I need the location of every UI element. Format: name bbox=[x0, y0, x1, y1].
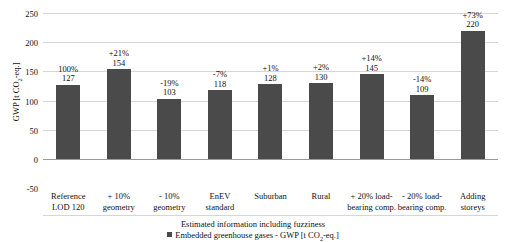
y-tick-0: 0 bbox=[8, 156, 38, 165]
legend: Estimated information including fuzzines… bbox=[0, 219, 506, 242]
legend-caption: Estimated information including fuzzines… bbox=[0, 219, 506, 230]
bar-absolute-label: 103 bbox=[160, 88, 178, 98]
bar[interactable] bbox=[208, 90, 232, 159]
bar[interactable] bbox=[309, 83, 333, 159]
x-axis-category-label: Addingstoreys bbox=[442, 191, 504, 213]
bar[interactable] bbox=[410, 95, 434, 159]
plot-area: 100%127+21%154-19%103-7%118+1%128+2%130+… bbox=[43, 13, 498, 188]
bar-absolute-label: 154 bbox=[109, 59, 129, 69]
bar-slot: -7%118 bbox=[195, 13, 246, 188]
bar[interactable] bbox=[157, 99, 181, 159]
bar[interactable] bbox=[258, 84, 282, 159]
bar-slot: -14%109 bbox=[397, 13, 448, 188]
bar-absolute-label: 130 bbox=[313, 73, 329, 83]
bar-slot: +73%220 bbox=[447, 13, 498, 188]
bar-slot: +1%128 bbox=[245, 13, 296, 188]
bar[interactable] bbox=[56, 85, 80, 159]
bar[interactable] bbox=[107, 69, 131, 159]
legend-series-item: Embedded greenhouse gases - GWP [t CO2-e… bbox=[0, 230, 506, 242]
bar-value-label: +21%154 bbox=[109, 49, 129, 68]
bar-absolute-label: 220 bbox=[463, 20, 483, 30]
bar-absolute-label: 127 bbox=[58, 74, 78, 84]
bar-absolute-label: 145 bbox=[361, 64, 381, 74]
y-tick-100: 100 bbox=[8, 98, 38, 107]
y-tick-250: 250 bbox=[8, 10, 38, 19]
bar-value-label: -7%118 bbox=[213, 70, 227, 89]
y-tick-50: 50 bbox=[8, 127, 38, 136]
bar-value-label: +14%145 bbox=[361, 54, 381, 73]
bar-value-label: -14%109 bbox=[413, 75, 431, 94]
bar-absolute-label: 118 bbox=[213, 80, 227, 90]
bar-slot: 100%127 bbox=[43, 13, 94, 188]
bar-absolute-label: 128 bbox=[262, 74, 278, 84]
category-line-1: Adding bbox=[442, 191, 504, 202]
x-axis-categories: ReferenceLOD 120+ 10%geometry- 10%geomet… bbox=[43, 191, 498, 217]
bar-slot: +2%130 bbox=[296, 13, 347, 188]
bar-value-label: +1%128 bbox=[262, 64, 278, 83]
bar-value-label: -19%103 bbox=[160, 79, 178, 98]
bar[interactable] bbox=[360, 74, 384, 159]
bar-value-label: +73%220 bbox=[463, 11, 483, 30]
bar-value-label: 100%127 bbox=[58, 65, 78, 84]
legend-swatch-icon bbox=[167, 232, 172, 237]
y-tick-neg50: -50 bbox=[8, 185, 38, 194]
bar-slot: -19%103 bbox=[144, 13, 195, 188]
bar[interactable] bbox=[461, 31, 485, 159]
bar-slot: +21%154 bbox=[94, 13, 145, 188]
category-line-2: storeys bbox=[442, 202, 504, 213]
clipped-title bbox=[0, 0, 506, 7]
bar-value-label: +2%130 bbox=[313, 63, 329, 82]
bar-slot: +14%145 bbox=[346, 13, 397, 188]
bar-chart: GWP [t CO2-eq.] 250 200 150 100 50 0 -50… bbox=[0, 0, 506, 242]
bar-absolute-label: 109 bbox=[413, 85, 431, 95]
category-line-2: standard bbox=[189, 202, 251, 213]
y-tick-200: 200 bbox=[8, 39, 38, 48]
y-tick-150: 150 bbox=[8, 68, 38, 77]
